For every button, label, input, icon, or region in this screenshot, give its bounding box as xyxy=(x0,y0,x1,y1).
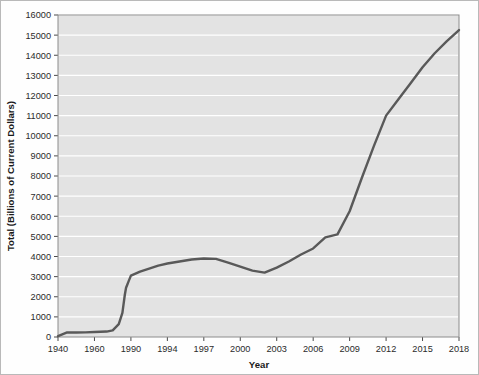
y-tick-label: 1000 xyxy=(31,312,51,322)
y-tick-label: 5000 xyxy=(31,232,51,242)
x-tick-label: 2003 xyxy=(267,344,287,354)
x-axis-title: Year xyxy=(249,359,270,370)
y-tick-label: 11000 xyxy=(26,111,51,121)
y-tick-label: 13000 xyxy=(25,71,51,81)
y-tick-label: 15000 xyxy=(25,31,51,41)
y-tick-label: 16000 xyxy=(25,10,51,20)
x-tick-label: 2015 xyxy=(412,344,432,354)
y-tick-label: 0 xyxy=(46,332,51,342)
y-tick-label: 7000 xyxy=(31,192,51,202)
x-tick-label: 2006 xyxy=(303,344,323,354)
y-tick-label: 3000 xyxy=(31,272,51,282)
x-axis-ticks-group: 1940196019901994199720002003200620092012… xyxy=(48,337,469,354)
x-tick-label: 1990 xyxy=(121,344,141,354)
y-axis-ticks-group: 0100020003000400050006000700080009000100… xyxy=(25,10,58,342)
x-tick-label: 1960 xyxy=(84,344,104,354)
y-axis-title: Total (Billions of Current Dollars) xyxy=(5,101,16,251)
x-tick-label: 2012 xyxy=(376,344,396,354)
y-tick-label: 10000 xyxy=(25,131,51,141)
y-tick-label: 8000 xyxy=(31,171,51,181)
x-tick-label: 1940 xyxy=(48,344,68,354)
y-tick-label: 6000 xyxy=(31,212,51,222)
y-tick-label: 4000 xyxy=(31,252,51,262)
y-tick-label: 12000 xyxy=(25,91,51,101)
x-tick-label: 2009 xyxy=(339,344,359,354)
x-tick-label: 1994 xyxy=(157,344,177,354)
y-tick-label: 14000 xyxy=(25,51,51,61)
chart-figure: 0100020003000400050006000700080009000100… xyxy=(0,0,479,375)
x-tick-label: 1997 xyxy=(194,344,214,354)
y-tick-label: 9000 xyxy=(31,151,51,161)
x-tick-label: 2018 xyxy=(449,344,469,354)
x-tick-label: 2000 xyxy=(230,344,250,354)
y-tick-label: 2000 xyxy=(31,292,51,302)
line-chart: 0100020003000400050006000700080009000100… xyxy=(1,1,479,375)
